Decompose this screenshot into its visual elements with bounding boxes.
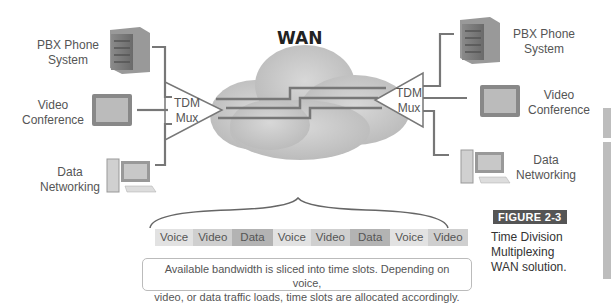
curly-brace bbox=[150, 198, 448, 228]
caption-line1: Available bandwidth is sliced into time … bbox=[151, 262, 463, 290]
left-video-monitor-icon bbox=[92, 94, 132, 126]
left-mux-line2: Mux bbox=[169, 111, 205, 126]
figure-desc-line3: WAN solution. bbox=[491, 260, 581, 275]
time-slot: Data bbox=[232, 229, 272, 246]
time-slot-strip: Voice Video Data Voice Video Data Voice … bbox=[155, 229, 468, 246]
right-pbx-line2: System bbox=[504, 42, 584, 57]
right-desktop-computer-icon bbox=[461, 150, 510, 183]
figure-description: Time Division Multiplexing WAN solution. bbox=[491, 230, 581, 275]
time-slot: Video bbox=[193, 229, 232, 246]
caption-box: Available bandwidth is sliced into time … bbox=[142, 258, 472, 291]
figure-tag: FIGURE 2-3 bbox=[493, 210, 567, 224]
left-pbx-label: PBX Phone System bbox=[28, 38, 108, 68]
right-video-line1: Video bbox=[523, 88, 595, 103]
page-edge-tab bbox=[603, 142, 611, 279]
left-video-label: Video Conference bbox=[18, 98, 88, 128]
left-video-line2: Conference bbox=[18, 113, 88, 128]
time-slot: Voice bbox=[390, 229, 428, 246]
left-video-line1: Video bbox=[18, 98, 88, 113]
page-edge-tab bbox=[603, 108, 611, 138]
right-pbx-label: PBX Phone System bbox=[504, 27, 584, 57]
left-data-label: Data Networking bbox=[34, 165, 106, 195]
right-mux-line2: Mux bbox=[393, 101, 425, 116]
time-slot: Video bbox=[428, 229, 467, 246]
time-slot: Voice bbox=[155, 229, 193, 246]
time-slot: Voice bbox=[273, 229, 311, 246]
left-server-icon bbox=[110, 27, 150, 74]
figure-desc-line1: Time Division bbox=[491, 230, 581, 245]
left-data-line2: Networking bbox=[34, 180, 106, 195]
right-data-line2: Networking bbox=[510, 168, 582, 183]
right-data-line1: Data bbox=[510, 153, 582, 168]
right-data-label: Data Networking bbox=[510, 153, 582, 183]
wan-label: WAN bbox=[277, 31, 322, 46]
left-pbx-line2: System bbox=[28, 53, 108, 68]
right-video-line2: Conference bbox=[523, 103, 595, 118]
time-slot: Video bbox=[311, 229, 350, 246]
figure-desc-line2: Multiplexing bbox=[491, 245, 581, 260]
right-pbx-line1: PBX Phone bbox=[504, 27, 584, 42]
right-mux-label: TDM Mux bbox=[393, 86, 425, 116]
right-video-label: Video Conference bbox=[523, 88, 595, 118]
left-desktop-computer-icon bbox=[107, 159, 156, 192]
left-pbx-line1: PBX Phone bbox=[28, 38, 108, 53]
left-mux-label: TDM Mux bbox=[169, 96, 205, 126]
caption-line2: video, or data traffic loads, time slots… bbox=[151, 290, 463, 304]
left-mux-line1: TDM bbox=[169, 96, 205, 111]
time-slot: Data bbox=[350, 229, 390, 246]
left-data-line1: Data bbox=[34, 165, 106, 180]
right-video-monitor-icon bbox=[480, 85, 520, 117]
right-server-icon bbox=[460, 17, 500, 64]
right-mux-line1: TDM bbox=[393, 86, 425, 101]
